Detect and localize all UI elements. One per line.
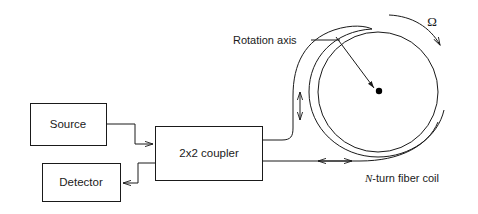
wire-source-to-coupler xyxy=(107,124,154,144)
coil-caption: N-turn fiber coil xyxy=(364,172,439,184)
rotation-axis-label: Rotation axis xyxy=(233,34,297,46)
wire-coupler-to-detector xyxy=(123,163,155,183)
detector-block: Detector xyxy=(43,164,121,202)
fiber-optic-gyroscope-figure: Source Detector 2x2 coupler xyxy=(0,0,478,214)
source-block: Source xyxy=(31,104,107,146)
coil-caption-rest: -turn fiber coil xyxy=(372,172,439,184)
coil-outer-turn xyxy=(309,29,444,157)
source-box-label: Source xyxy=(50,118,86,130)
coupler-box-label: 2x2 coupler xyxy=(179,147,239,159)
coupler-block: 2x2 coupler xyxy=(156,127,263,181)
detector-box-label: Detector xyxy=(59,176,103,188)
diagram-canvas: Source Detector 2x2 coupler xyxy=(0,0,478,214)
omega-label: Ω xyxy=(427,14,437,29)
rotation-axis-center-dot xyxy=(376,88,382,94)
rotation-axis-pointer xyxy=(336,37,374,88)
